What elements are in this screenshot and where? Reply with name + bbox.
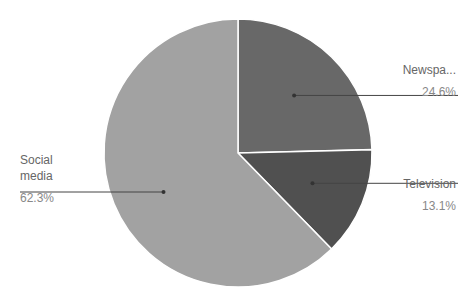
label-social-name-1: Social [20, 152, 54, 168]
label-newspaper-pct: 24.6% [403, 84, 456, 100]
label-newspaper-name: Newspa... [403, 62, 456, 78]
pie-slice-newspaper [238, 19, 372, 153]
label-television-name: Television [403, 176, 456, 192]
leader-dot-newspaper [292, 93, 296, 97]
leader-dot-social-media [162, 190, 166, 194]
label-television: Television 13.1% [403, 176, 456, 214]
label-television-pct: 13.1% [403, 198, 456, 214]
label-social-pct: 62.3% [20, 190, 54, 206]
label-newspaper: Newspa... 24.6% [403, 62, 456, 100]
label-social-name-2: media [20, 168, 54, 184]
pie-chart [0, 0, 476, 302]
label-social-media: Social media 62.3% [20, 152, 54, 206]
pie-slices [104, 19, 372, 287]
leader-dot-television [310, 181, 314, 185]
